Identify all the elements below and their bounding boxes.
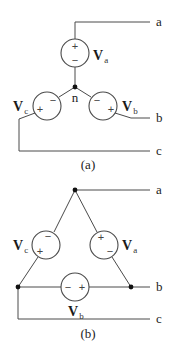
plus-sign: +	[72, 40, 78, 52]
node-n	[73, 85, 78, 90]
wye-diagram: + − Va n − + Vc − + Vb a b c (a)	[13, 14, 163, 172]
source-vb: − + Vb	[89, 92, 138, 120]
node-top	[73, 188, 78, 193]
caption-b: (b)	[80, 326, 95, 341]
plus-sign: +	[37, 103, 43, 115]
source-label-va: Va	[93, 48, 108, 65]
plus-sign: +	[108, 103, 114, 115]
source-vc: − + Vc	[13, 230, 60, 259]
neutral-label: n	[72, 90, 79, 105]
wire-c	[19, 113, 150, 151]
source-label-vc: Vc	[13, 99, 28, 116]
node-bottom-right	[129, 285, 134, 290]
plus-sign: +	[98, 231, 104, 243]
terminal-a: a	[156, 14, 162, 29]
source-vc: − + Vc	[13, 92, 61, 120]
minus-sign: −	[72, 54, 78, 66]
source-vb: − + Vb	[61, 273, 89, 321]
minus-sign: −	[50, 94, 56, 106]
source-label-vb: Vb	[122, 99, 138, 116]
wire-va-to-br	[112, 257, 131, 287]
minus-sign: −	[94, 94, 100, 106]
source-label-va: Va	[122, 238, 137, 255]
delta-diagram: − + Vc + − Va − + Vb a b c (b)	[13, 182, 163, 341]
minus-sign: −	[107, 245, 113, 257]
terminal-a: a	[156, 182, 162, 197]
source-label-vb: Vb	[68, 304, 84, 321]
minus-sign: −	[45, 230, 51, 242]
terminal-b: b	[156, 110, 163, 125]
wire-top-to-vc	[54, 190, 75, 232]
circuit-figure: + − Va n − + Vc − + Vb a b c (a)	[0, 0, 184, 350]
source-va: + − Va	[61, 39, 108, 67]
terminal-c: c	[156, 311, 162, 326]
plus-sign: +	[79, 281, 85, 293]
caption-a: (a)	[81, 157, 95, 172]
node-bottom-left	[16, 285, 21, 290]
plus-sign: +	[37, 245, 43, 257]
terminal-b: b	[156, 279, 163, 294]
minus-sign: −	[65, 281, 71, 293]
terminal-c: c	[156, 143, 162, 158]
wire-vc-to-bl	[18, 257, 38, 287]
source-label-vc: Vc	[13, 238, 28, 255]
wire-a	[75, 22, 150, 39]
wire-top-to-va	[75, 190, 97, 232]
source-va: + − Va	[90, 231, 137, 259]
